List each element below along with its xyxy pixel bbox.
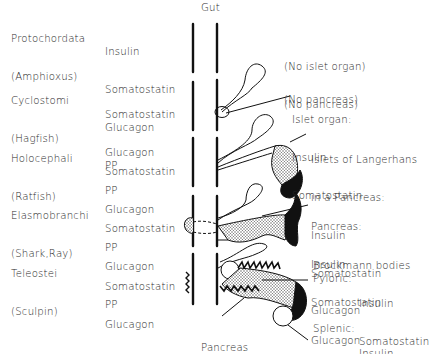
label-splenic: Splenic: (313, 323, 355, 336)
label-pyloric: Pyloric: (313, 273, 352, 286)
label-dispersed-pancreas: Pancreas (dispersed type) (201, 317, 288, 354)
hormones-teleostei: Somatostatin Glucagon PP (105, 256, 175, 354)
splenic-hormones: Insulin Somatostatin Glucagon (359, 323, 429, 354)
taxon-teleostei: Teleostei (Sculpin) (11, 243, 58, 331)
cyclostomi-islet-organ (215, 64, 290, 118)
gut-label: Gut (201, 2, 220, 15)
label-brockmann-bodies: Brockmann bodies (313, 260, 410, 273)
